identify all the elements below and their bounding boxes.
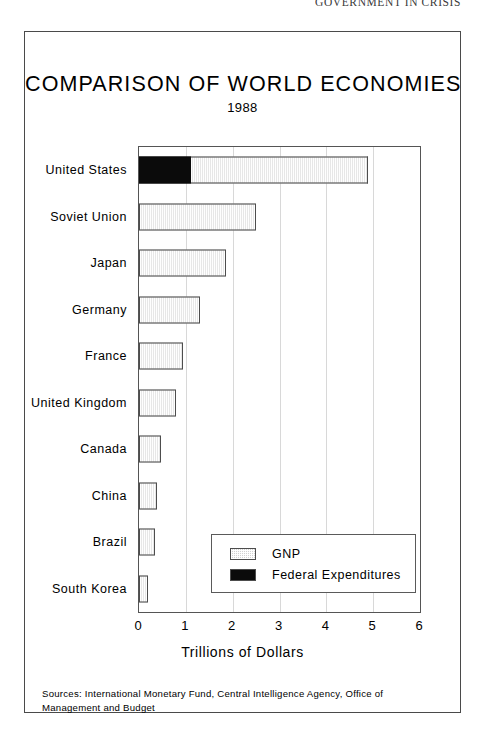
bar-segment-gnp <box>139 296 200 323</box>
bar-category-label: United Kingdom <box>31 396 127 410</box>
bar-row: Germany <box>139 287 420 334</box>
x-axis-ticks: 0123456 <box>138 618 421 636</box>
bar-segment-gnp <box>139 203 256 230</box>
bar-row: United States <box>139 147 420 194</box>
bar-row: Soviet Union <box>139 194 420 241</box>
x-tick-label: 3 <box>275 618 282 633</box>
x-tick-label: 0 <box>134 618 141 633</box>
bar-row: Canada <box>139 426 420 473</box>
x-axis-label: Trillions of Dollars <box>25 644 460 660</box>
bar-track <box>139 436 161 463</box>
bar-track <box>139 296 200 323</box>
x-tick-label: 4 <box>322 618 329 633</box>
legend-item: Federal Expenditures <box>230 564 415 585</box>
bar-category-label: China <box>92 489 127 503</box>
bar-track <box>139 389 176 416</box>
x-tick-label: 1 <box>181 618 188 633</box>
bar-segment-gnp <box>139 343 183 370</box>
bar-segment-gnp <box>139 482 157 509</box>
bar-category-label: Japan <box>90 256 127 270</box>
bar-row: United Kingdom <box>139 380 420 427</box>
x-tick-label: 2 <box>228 618 235 633</box>
bar-track <box>139 203 256 230</box>
bar-row: France <box>139 333 420 380</box>
bar-row: China <box>139 473 420 520</box>
bar-segment-gnp <box>139 575 148 602</box>
bar-segment-federal-expenditures <box>139 157 191 184</box>
bar-segment-gnp <box>139 436 161 463</box>
x-tick-label: 6 <box>415 618 422 633</box>
bar-category-label: Canada <box>80 442 127 456</box>
x-tick-label: 5 <box>369 618 376 633</box>
bar-track <box>139 575 148 602</box>
bar-track <box>139 250 226 277</box>
bar-segment-gnp <box>139 529 155 556</box>
bar-category-label: Soviet Union <box>50 210 127 224</box>
bar-track <box>139 157 368 184</box>
chart-title: COMPARISON OF WORLD ECONOMIES <box>25 72 460 97</box>
legend-item: GNP <box>230 543 415 564</box>
chart-subtitle: 1988 <box>25 100 460 115</box>
bar-segment-gnp <box>139 389 176 416</box>
bar-category-label: France <box>85 349 127 363</box>
bar-segment-gnp <box>191 157 369 184</box>
bar-track <box>139 343 183 370</box>
bar-row: Japan <box>139 240 420 287</box>
bar-segment-gnp <box>139 250 226 277</box>
source-note: Sources: International Monetary Fund, Ce… <box>42 687 438 714</box>
legend-label: Federal Expenditures <box>272 568 401 582</box>
bar-category-label: South Korea <box>52 582 127 596</box>
bar-track <box>139 529 155 556</box>
figure-frame: COMPARISON OF WORLD ECONOMIES 1988 Unite… <box>24 31 461 713</box>
legend-swatch-solid-black <box>230 569 256 581</box>
running-head: GOVERNMENT IN CRISIS <box>315 0 461 7</box>
bar-category-label: Brazil <box>93 535 127 549</box>
bar-category-label: United States <box>45 163 127 177</box>
legend-label: GNP <box>272 547 301 561</box>
bar-track <box>139 482 157 509</box>
bar-category-label: Germany <box>72 303 127 317</box>
legend-swatch-hatched-gray <box>230 548 256 560</box>
chart-legend: GNPFederal Expenditures <box>211 534 416 593</box>
